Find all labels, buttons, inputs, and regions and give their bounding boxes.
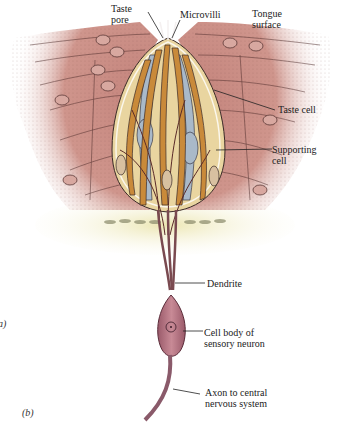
label-axon: Axon to central nervous system: [205, 387, 267, 409]
label-taste-cell: Taste cell: [278, 104, 316, 115]
cell-body: [158, 295, 186, 356]
taste-bud-diagram: Taste pore Microvilli Tongue surface Tas…: [0, 0, 341, 427]
label-microvilli: Microvilli: [180, 9, 221, 20]
panel-label-a: a): [0, 318, 6, 329]
label-taste-pore: Taste pore: [111, 3, 132, 25]
label-dendrite: Dendrite: [207, 278, 242, 289]
label-supporting-cell: Supporting cell: [272, 144, 316, 166]
axon: [145, 355, 170, 420]
panel-label-b: (b): [22, 407, 34, 418]
label-tongue-surface: Tongue surface: [252, 8, 282, 30]
label-cell-body: Cell body of sensory neuron: [204, 327, 265, 349]
taste-bud-illustration: [0, 0, 341, 427]
